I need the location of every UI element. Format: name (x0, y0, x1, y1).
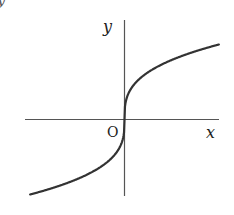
plot-canvas (0, 0, 234, 215)
cube-root-graph: y y O x (0, 0, 234, 215)
x-axis-label: x (206, 125, 215, 141)
origin-label: O (107, 125, 118, 139)
y-axis-label: y (103, 19, 112, 35)
